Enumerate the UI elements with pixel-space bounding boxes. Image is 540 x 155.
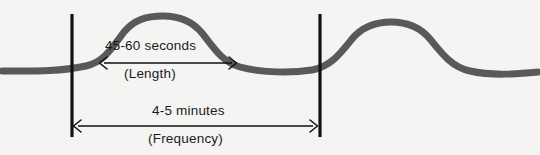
length-name-label: (Length) — [124, 66, 176, 81]
diagram-canvas — [0, 0, 540, 155]
frequency-value-label: 4-5 minutes — [152, 103, 225, 118]
wave-diagram: 45-60 seconds (Length) 4-5 minutes (Freq… — [0, 0, 540, 155]
frequency-name-label: (Frequency) — [148, 131, 223, 146]
length-value-label: 45-60 seconds — [105, 38, 196, 53]
contraction-wave-path — [2, 16, 538, 74]
